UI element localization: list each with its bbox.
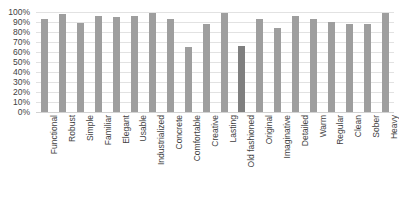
- bar-slot: [197, 12, 215, 112]
- x-axis-slot: Simple: [72, 114, 90, 196]
- bar-slot: [376, 12, 394, 112]
- bar-slot: [72, 12, 90, 112]
- x-axis-slot: Lasting: [215, 114, 233, 196]
- x-axis-slot: Imaginative: [269, 114, 287, 196]
- x-axis-slot: Regular: [323, 114, 341, 196]
- y-axis-tick-label: 50%: [13, 58, 30, 67]
- x-axis-tick-label: Heavy: [390, 115, 399, 139]
- y-axis-tick-label: 70%: [13, 38, 30, 47]
- x-axis-slot: Functional: [36, 114, 54, 196]
- bar-slot: [233, 12, 251, 112]
- x-axis-slot: Detailed: [287, 114, 305, 196]
- x-axis-slot: Familiar: [90, 114, 108, 196]
- chart-title: [0, 0, 397, 2]
- bar: [256, 19, 263, 112]
- bar: [382, 13, 389, 112]
- plot-area: [36, 12, 394, 112]
- bar-slot: [108, 12, 126, 112]
- x-axis-slot: Sober: [358, 114, 376, 196]
- bar: [167, 19, 174, 112]
- axis-baseline: [36, 112, 394, 113]
- bar: [328, 22, 335, 112]
- bar-slot: [215, 12, 233, 112]
- x-axis-slot: Elegant: [108, 114, 126, 196]
- bar-series: [36, 12, 394, 112]
- y-axis-tick-label: 60%: [13, 48, 30, 57]
- bar-slot: [305, 12, 323, 112]
- bar: [113, 17, 120, 112]
- bar-slot: [179, 12, 197, 112]
- bar-slot: [36, 12, 54, 112]
- bar: [77, 23, 84, 112]
- y-axis-tick-label: 10%: [13, 98, 30, 107]
- x-axis-slot: Clean: [340, 114, 358, 196]
- bar: [59, 14, 66, 112]
- y-axis-tick-label: 0%: [18, 108, 30, 117]
- bar-slot: [358, 12, 376, 112]
- bar: [95, 16, 102, 112]
- bar-slot: [161, 12, 179, 112]
- x-axis-slot: Concrete: [161, 114, 179, 196]
- bar-slot: [323, 12, 341, 112]
- bar: [221, 13, 228, 112]
- bar: [149, 13, 156, 112]
- bar-slot: [54, 12, 72, 112]
- bar-slot: [90, 12, 108, 112]
- y-axis-tick-label: 90%: [13, 18, 30, 27]
- bar: [203, 24, 210, 112]
- bar-slot: [269, 12, 287, 112]
- x-axis-slot: Original: [251, 114, 269, 196]
- y-axis-tick-label: 20%: [13, 88, 30, 97]
- y-axis: 100%90%80%70%60%50%40%30%20%10%0%: [0, 12, 33, 112]
- bar-slot: [126, 12, 144, 112]
- bar-slot: [143, 12, 161, 112]
- y-axis-tick-label: 30%: [13, 78, 30, 87]
- bar: [238, 46, 245, 112]
- y-axis-tick-label: 40%: [13, 68, 30, 77]
- x-axis-slot: Comfortable: [179, 114, 197, 196]
- y-axis-tick-label: 100%: [8, 8, 30, 17]
- x-axis: FunctionalRobustSimpleFamiliarElegantUsa…: [36, 114, 394, 196]
- bar: [310, 19, 317, 112]
- bar: [364, 24, 371, 112]
- bar: [346, 24, 353, 112]
- bar-slot: [251, 12, 269, 112]
- bar-slot: [287, 12, 305, 112]
- x-axis-slot: Creative: [197, 114, 215, 196]
- x-axis-slot: Old fashioned: [233, 114, 251, 196]
- bar: [292, 16, 299, 112]
- y-axis-tick-label: 80%: [13, 28, 30, 37]
- bar: [274, 28, 281, 112]
- bar: [41, 19, 48, 112]
- bar: [185, 47, 192, 112]
- bar-slot: [340, 12, 358, 112]
- x-axis-slot: Warm: [305, 114, 323, 196]
- x-axis-slot: Industrialized: [143, 114, 161, 196]
- x-axis-slot: Robust: [54, 114, 72, 196]
- x-axis-slot: Usable: [126, 114, 144, 196]
- bar: [131, 16, 138, 112]
- x-axis-slot: Heavy: [376, 114, 394, 196]
